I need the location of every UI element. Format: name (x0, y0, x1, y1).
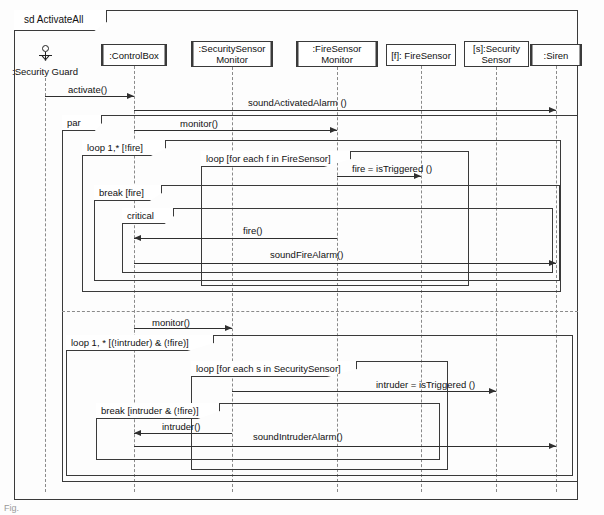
fragment-operator-tab-breakintr: break [intruder & (!fire)] (96, 403, 220, 419)
message-line-m1 (45, 96, 134, 97)
actor-head-icon (42, 45, 49, 52)
message-line-m7 (134, 328, 232, 329)
fragment-operator-label-critical: critical (127, 210, 154, 221)
fragment-operator-tab-loopfire: loop 1,* [!fire] (82, 140, 166, 156)
actor-figure (38, 45, 53, 67)
message-arrowhead-m7 (225, 325, 232, 331)
message-arrowhead-m10 (549, 443, 556, 449)
fragment-operator-label-loopfire: loop 1,* [!fire] (87, 142, 143, 153)
message-line-m9 (134, 433, 232, 434)
message-label-m8: intruder = isTriggered () (376, 379, 475, 390)
message-arrowhead-m2 (549, 107, 556, 113)
sd-frame-label: sd ActivateAll (24, 14, 83, 25)
lifeline-label-guard: :Security Guard (0, 66, 105, 77)
lifeline-label-ssens: [s]:Security Sensor (471, 43, 522, 65)
lifeline-head-cbox[interactable]: :ControlBox (101, 44, 167, 66)
fragment-operator-label-loopeachf: loop [for each f in FireSensor] (206, 153, 331, 164)
message-label-m6: soundFireAlarm() (270, 249, 343, 260)
lifeline-head-ssmon[interactable]: :SecuritySensor Monitor (191, 41, 273, 67)
message-line-m3 (134, 130, 337, 131)
message-arrowhead-m6 (549, 260, 556, 266)
message-label-m7: monitor() (152, 317, 190, 328)
fragment-operator-tab-loopeachs: loop [for each s in SecuritySensor] (191, 361, 357, 377)
message-line-m2 (134, 110, 556, 111)
fragment-operator-tab-loopeachf: loop [for each f in FireSensor] (201, 151, 351, 167)
par-operand-divider (62, 311, 578, 312)
lifeline-head-siren[interactable]: :Siren (530, 44, 582, 66)
fragment-operator-label-looploiter: loop 1, * [(!intruder) & (!fire)] (71, 337, 189, 348)
fragment-operator-label-breakfire: break [fire] (99, 187, 144, 198)
lifeline-head-fsmon[interactable]: :FireSensor Monitor (296, 41, 378, 67)
message-arrowhead-m3 (330, 127, 337, 133)
message-arrowhead-m5 (134, 235, 141, 241)
lifeline-label-fsens: [f]: FireSensor (389, 50, 453, 61)
fragment-operator-label-breakintr: break [intruder & (!fire)] (101, 405, 199, 416)
message-arrowhead-m9 (134, 430, 141, 436)
message-label-m2: soundActivatedAlarm () (248, 97, 347, 108)
fragment-operator-label-loopeachs: loop [for each s in SecuritySensor] (196, 363, 341, 374)
fragment-operator-tab-breakfire: break [fire] (94, 185, 162, 201)
message-line-m4 (337, 176, 421, 177)
message-label-m1: activate() (68, 84, 107, 95)
figure-corner-marker: Fig. (4, 503, 19, 513)
message-line-m10 (134, 446, 556, 447)
message-label-m4: fire = isTriggered () (352, 163, 432, 174)
fragment-operator-tab-looploiter: loop 1, * [(!intruder) & (!fire)] (66, 335, 214, 351)
message-label-m5: fire() (243, 225, 263, 236)
message-line-m8 (232, 391, 496, 392)
message-arrowhead-m1 (127, 93, 134, 99)
fragment-operator-tab-critical: critical (122, 208, 174, 224)
lifeline-label-fsmon: :FireSensor Monitor (310, 43, 363, 65)
message-label-m9: intruder() (162, 421, 201, 432)
fragment-operator-tab-par: par (62, 115, 102, 131)
lifeline-label-siren: :Siren (542, 50, 571, 61)
message-label-m10: soundIntruderAlarm() (253, 431, 343, 442)
message-line-m5 (134, 238, 337, 239)
sd-frame-tab: sd ActivateAll (14, 10, 107, 31)
lifeline-label-cbox: :ControlBox (107, 50, 161, 61)
lifeline-head-fsens[interactable]: [f]: FireSensor (386, 44, 456, 66)
lifeline-label-ssmon: :SecuritySensor Monitor (196, 43, 267, 65)
lifeline-head-ssens[interactable]: [s]:Security Sensor (464, 41, 529, 67)
message-arrowhead-m8 (489, 388, 496, 394)
message-line-m6 (134, 263, 556, 264)
lifeline-guard (45, 78, 46, 492)
fragment-operator-label-par: par (67, 117, 81, 128)
sequence-diagram-canvas: sd ActivateAll :Security Guard:ControlBo… (0, 0, 604, 515)
message-label-m3: monitor() (180, 118, 218, 129)
